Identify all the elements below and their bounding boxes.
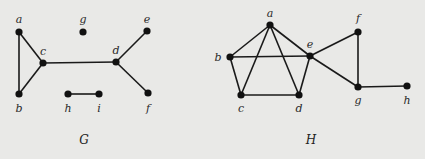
graph-caption: H [305,133,317,147]
edge-d-e [299,56,310,95]
vertex-label: e [144,13,151,26]
vertex-label: i [97,102,101,115]
graph-h: abcdefghH [214,7,410,147]
edge-b-c [230,57,241,95]
edge-g-h [358,86,407,87]
vertex-c [39,59,46,66]
vertex-label: h [64,102,71,115]
edge-b-c [19,63,43,94]
vertex-f [144,89,151,96]
vertex-g [79,28,86,35]
vertex-label: d [112,44,119,57]
vertex-f [354,28,361,35]
vertex-i [95,90,102,97]
vertex-label: b [15,102,22,115]
vertex-b [15,90,22,97]
vertex-label: a [16,13,23,26]
vertex-label: h [403,94,410,107]
vertex-e [306,52,313,59]
edge-e-g [310,56,358,87]
vertex-d [112,58,119,65]
vertex-label: a [267,7,274,20]
edge-d-e [116,31,147,62]
vertex-e [143,27,150,34]
vertex-label: f [145,102,152,115]
vertex-h [403,82,410,89]
graph-diagram-canvas: abcgdefhiG abcdefghH [0,0,425,159]
vertex-label: g [354,94,361,107]
vertex-label: f [355,12,362,25]
vertex-label: e [307,38,314,51]
vertex-g [354,83,361,90]
vertex-a [15,28,22,35]
vertex-c [237,91,244,98]
vertex-label: d [295,102,302,115]
graph-g: abcgdefhiG [15,13,152,147]
edge-b-e [230,56,310,57]
vertex-h [64,90,71,97]
edge-c-d [43,62,116,63]
vertex-a [266,21,273,28]
vertex-b [226,53,233,60]
edge-e-f [310,32,358,56]
edge-d-f [116,62,148,93]
vertex-label: g [79,13,86,26]
edge-a-c [241,25,270,95]
vertex-d [295,91,302,98]
vertex-label: c [40,45,46,58]
vertex-label: c [238,102,244,115]
graph-caption: G [79,133,89,147]
vertex-label: b [214,51,221,64]
